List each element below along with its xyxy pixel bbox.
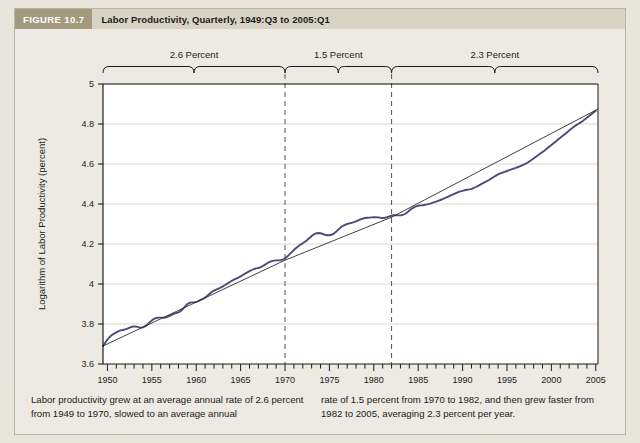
brace-label-1: 2.6 Percent [170,49,219,60]
y-tick-label: 4 [89,279,94,289]
brace-label-2: 1.5 Percent [314,49,363,60]
figure-number-badge: FIGURE 10.7 [15,9,92,29]
brace-2 [285,67,392,74]
y-tick-label: 4.2 [81,239,94,249]
brace-1 [103,67,285,74]
figure-header: FIGURE 10.7 Labor Productivity, Quarterl… [15,9,625,29]
x-tick-label: 1965 [231,375,251,385]
x-tick-label: 1975 [319,375,339,385]
y-tick-label: 4.6 [81,159,94,169]
y-tick-label: 3.6 [81,359,94,369]
x-tick-label: 1960 [186,375,206,385]
x-tick-label: 1950 [97,375,117,385]
labor-productivity-chart: 3.63.844.24.44.64.8519501955196019651970… [15,29,627,389]
y-tick-label: 3.8 [81,319,94,329]
x-tick-label: 2000 [541,375,561,385]
x-tick-label: 1955 [142,375,162,385]
caption-column-right: rate of 1.5 percent from 1970 to 1982, a… [321,393,611,435]
brace-label-3: 2.3 Percent [470,49,519,60]
x-tick-label: 1980 [364,375,384,385]
y-axis-title: Logarithm of Labor Productivity (percent… [36,138,47,310]
figure-caption: Labor productivity grew at an average an… [15,391,627,435]
brace-3 [392,67,598,74]
caption-column-left: Labor productivity grew at an average an… [31,393,321,435]
x-tick-label: 1970 [275,375,295,385]
y-tick-label: 4.8 [81,119,94,129]
y-tick-label: 5 [89,79,94,89]
y-tick-label: 4.4 [81,199,94,209]
figure-title: Labor Productivity, Quarterly, 1949:Q3 t… [101,14,329,25]
x-tick-label: 1985 [408,375,428,385]
x-tick-label: 2005 [586,375,606,385]
x-tick-label: 1990 [453,375,473,385]
chart-container: 3.63.844.24.44.64.8519501955196019651970… [15,29,627,389]
figure-panel: FIGURE 10.7 Labor Productivity, Quarterl… [14,8,626,435]
x-tick-label: 1995 [497,375,517,385]
